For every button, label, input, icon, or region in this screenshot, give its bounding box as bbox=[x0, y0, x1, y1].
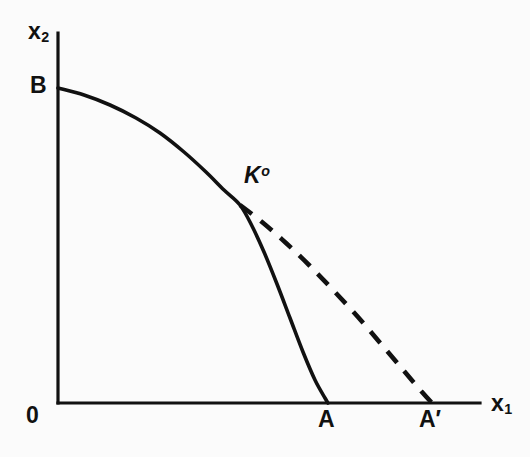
x-axis-label: x1 bbox=[491, 392, 512, 416]
y-axis-label-text: x bbox=[28, 18, 41, 44]
plot-canvas bbox=[0, 0, 530, 457]
x-intercept-label-a: A bbox=[318, 408, 335, 431]
kink-point-label-k0: Ko bbox=[244, 164, 270, 187]
kink-label-superscript: o bbox=[261, 163, 270, 179]
ppf-figure: x2 B 0 Ko A A′ x1 bbox=[0, 0, 530, 457]
origin-label: 0 bbox=[26, 404, 39, 427]
x-axis-label-text: x bbox=[491, 390, 504, 416]
y-axis-label: x2 bbox=[28, 20, 49, 44]
y-intercept-label-b: B bbox=[30, 74, 47, 97]
y-axis-label-subscript: 2 bbox=[41, 29, 49, 45]
dashed-extension-curve bbox=[240, 205, 432, 403]
x-axis-label-subscript: 1 bbox=[504, 401, 512, 417]
x-intercept-label-a-prime: A′ bbox=[419, 408, 441, 431]
kink-label-text: K bbox=[244, 162, 261, 188]
